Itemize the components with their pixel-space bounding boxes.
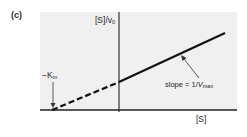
km-label: −Km: [42, 70, 57, 80]
hanes-woolf-plot: [0, 0, 247, 137]
plot-background: [40, 12, 237, 110]
x-axis-label: [S]: [196, 114, 206, 124]
slope-label: slope = 1/Vmax: [165, 80, 213, 89]
y-axis-label: [S]/v0: [95, 15, 115, 25]
